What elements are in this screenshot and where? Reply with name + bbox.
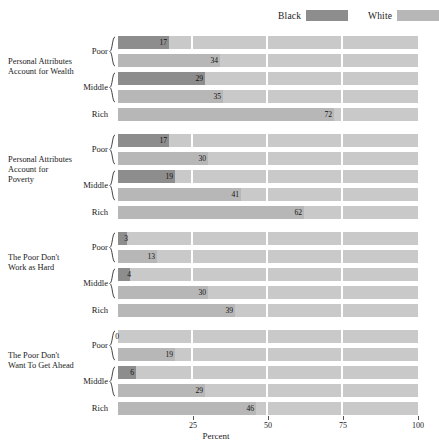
bar-value-label: 13: [147, 253, 155, 261]
group-label-middle: Middle: [83, 82, 108, 92]
group-brace: [109, 232, 116, 263]
axis-tick-label: 100: [412, 421, 424, 430]
legend-label: Black: [278, 11, 301, 21]
bar-row: 30: [118, 286, 418, 299]
bar-track-segment: [343, 304, 418, 317]
axis-tick: [268, 416, 269, 420]
bar-black: 4: [118, 268, 130, 281]
group-label-middle: Middle: [83, 376, 108, 386]
bar-track-segment: [268, 232, 341, 245]
group-label-poor: Poor: [92, 242, 108, 252]
bar-value-label: 4: [127, 271, 131, 279]
legend-label: White: [368, 11, 392, 21]
bar-white: 29: [118, 384, 205, 397]
bar-white: 30: [118, 152, 208, 165]
bar-track-segment: [268, 268, 341, 281]
chart-panel: The Poor Don't Want To Get Ahead01962946…: [0, 330, 432, 415]
bar-value-label: 62: [294, 209, 302, 217]
group-label-rich: Rich: [92, 305, 108, 315]
group-brace: [109, 134, 116, 165]
bar-row: 13: [118, 250, 418, 263]
group-brace: [109, 72, 116, 103]
axis-tick: [418, 416, 419, 420]
bar-value-label: 35: [213, 93, 221, 101]
bar-track-segment: [193, 348, 266, 361]
bar-row: 41: [118, 188, 418, 201]
bar-track-segment: [193, 268, 266, 281]
bar-track-segment: [268, 304, 341, 317]
bar-track: [118, 330, 418, 343]
bar-track-segment: [343, 206, 418, 219]
bar-value-label: 29: [195, 387, 203, 395]
group-brace: [109, 330, 116, 361]
bar-value-label: 30: [198, 289, 206, 297]
bar-black: 17: [118, 36, 169, 49]
bar-track: [118, 232, 418, 245]
group-label-poor: Poor: [92, 46, 108, 56]
bar-row: 3: [118, 232, 418, 245]
bar-black: 6: [118, 366, 136, 379]
bar-value-label: 29: [195, 75, 203, 83]
bar-track-segment: [343, 286, 418, 299]
bar-row: 19: [118, 170, 418, 183]
bar-track-segment: [343, 330, 418, 343]
group-labels: PoorMiddleRich: [74, 232, 108, 317]
bar-white: 72: [118, 108, 334, 121]
bar-track-segment: [343, 54, 418, 67]
panel-title: The Poor Don't Work as Hard: [8, 253, 74, 274]
group-labels: PoorMiddleRich: [74, 36, 108, 121]
bar-row: 19: [118, 348, 418, 361]
bar-value-label: 17: [159, 39, 167, 47]
bar-track-segment: [343, 232, 418, 245]
bar-track-segment: [193, 134, 266, 147]
chart-legend: BlackWhite: [0, 10, 432, 32]
chart-plot-area: Personal Attributes Account for Wealth17…: [0, 30, 432, 416]
legend-item-black: Black: [278, 10, 348, 21]
group-label-rich: Rich: [92, 207, 108, 217]
x-axis-label: Percent: [0, 431, 432, 441]
bar-row: 6: [118, 366, 418, 379]
bar-row: 46: [118, 402, 418, 415]
bar-track-segment: [268, 188, 341, 201]
axis-tick-label: 50: [264, 421, 272, 430]
group-brace: [109, 36, 116, 67]
bar-track-segment: [343, 72, 418, 85]
bar-white: 39: [118, 304, 235, 317]
bar-value-label: 6: [130, 369, 134, 377]
bar-black: 19: [118, 170, 175, 183]
bar-row: 17: [118, 36, 418, 49]
bar-row: 4: [118, 268, 418, 281]
bar-track-segment: [268, 134, 341, 147]
group-label-poor: Poor: [92, 340, 108, 350]
bar-value-label: 46: [246, 405, 254, 413]
group-label-middle: Middle: [83, 278, 108, 288]
bar-track-segment: [268, 402, 341, 415]
legend-swatch-white: [397, 10, 439, 21]
bar-white: 30: [118, 286, 208, 299]
bar-track-segment: [343, 384, 418, 397]
bar-track-segment: [193, 250, 266, 263]
bar-white: 41: [118, 188, 241, 201]
bar-track-segment: [193, 170, 266, 183]
bar-row: 72: [118, 108, 418, 121]
bar-row: 35: [118, 90, 418, 103]
bar-track-segment: [343, 36, 418, 49]
chart-panel: The Poor Don't Work as Hard31343039PoorM…: [0, 232, 432, 317]
bar-track-segment: [268, 36, 341, 49]
bar-track: [118, 366, 418, 379]
bar-track-segment: [193, 330, 266, 343]
group-brace: [109, 268, 116, 299]
bar-row: 62: [118, 206, 418, 219]
panel-title: The Poor Don't Want To Get Ahead: [8, 351, 74, 372]
bar-track: [118, 268, 418, 281]
bar-value-label: 3: [124, 235, 128, 243]
bar-track-segment: [193, 366, 266, 379]
bar-track-segment: [268, 90, 341, 103]
bar-track-segment: [343, 108, 418, 121]
panel-title: Personal Attributes Account for Poverty: [8, 155, 74, 186]
bar-row: 29: [118, 72, 418, 85]
group-brace: [109, 366, 116, 397]
group-label-poor: Poor: [92, 144, 108, 154]
bar-black: 3: [118, 232, 127, 245]
bar-value-label: 41: [231, 191, 239, 199]
